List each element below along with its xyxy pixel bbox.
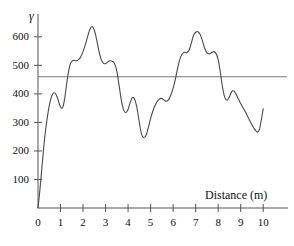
y-tick-label: 400 [0, 88, 29, 99]
chart-figure: γ Distance (m) 100200300400500600 012345… [0, 0, 294, 246]
x-axis-title: Distance (m) [205, 189, 267, 201]
gamma-profile-line [38, 27, 263, 208]
y-tick-label: 100 [0, 174, 29, 185]
x-tick-label: 10 [249, 217, 277, 228]
y-tick-label: 600 [0, 31, 29, 42]
axes-group [34, 14, 288, 212]
y-tick-label: 300 [0, 117, 29, 128]
y-tick-label: 500 [0, 60, 29, 71]
y-tick-label: 200 [0, 145, 29, 156]
y-axis-title: γ [29, 10, 34, 22]
plot-canvas [0, 0, 294, 246]
